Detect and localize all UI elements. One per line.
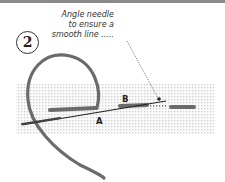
needle-point-dot [157, 97, 161, 101]
label-b: B [122, 94, 128, 104]
stitch-illustration [0, 0, 225, 182]
stitch [50, 108, 96, 110]
label-a: A [96, 116, 103, 126]
